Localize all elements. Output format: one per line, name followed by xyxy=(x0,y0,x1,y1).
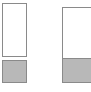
bar-right-filled-segment xyxy=(63,58,91,82)
bar-left-filled-segment[interactable] xyxy=(2,60,27,83)
bar-left-empty-segment[interactable] xyxy=(2,3,27,57)
bar-right[interactable] xyxy=(62,7,91,83)
figure-canvas xyxy=(0,0,91,92)
bar-right-empty-segment xyxy=(63,8,91,58)
